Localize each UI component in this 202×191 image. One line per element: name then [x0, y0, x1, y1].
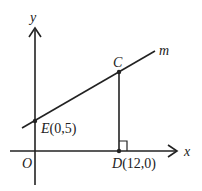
point-e-coords: (0,5) — [50, 121, 77, 137]
point-c — [117, 70, 121, 74]
y-axis-label: y — [28, 10, 37, 25]
point-e — [33, 119, 37, 123]
point-d-coords: (12,0) — [122, 156, 156, 172]
diagram-canvas: y x O m C E(0,5) D(12,0) — [0, 0, 202, 191]
point-e-name: E — [40, 121, 50, 136]
origin-label: O — [22, 156, 32, 171]
point-c-label: C — [113, 55, 123, 70]
point-d-label: D(12,0) — [111, 156, 156, 172]
line-m-label: m — [159, 43, 169, 58]
point-e-label: E(0,5) — [40, 121, 77, 137]
x-axis-label: x — [183, 144, 191, 159]
point-d — [117, 149, 121, 153]
point-d-name: D — [111, 156, 122, 171]
line-m — [22, 51, 155, 128]
